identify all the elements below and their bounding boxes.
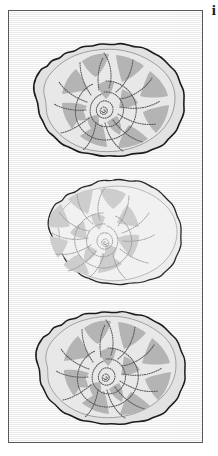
- ammonite-drawing-2: [39, 169, 187, 294]
- ammonite-drawing-3: [25, 303, 191, 427]
- plate-frame: [8, 10, 203, 443]
- specimen-stack: [9, 11, 202, 442]
- figure-panel: i: [0, 0, 218, 456]
- specimen-top: [23, 33, 193, 163]
- ammonite-drawing-1: [23, 33, 193, 163]
- panel-letter-label: i: [212, 3, 216, 18]
- specimen-middle: [39, 169, 187, 294]
- specimen-bottom: [25, 303, 191, 427]
